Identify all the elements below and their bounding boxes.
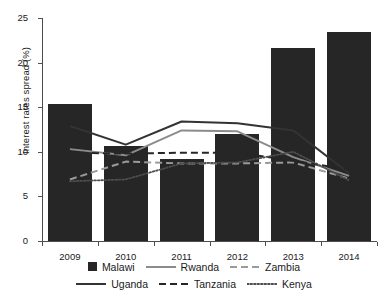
legend-label: Zambia — [265, 261, 300, 273]
legend-row-1: MalawiRwandaZambia — [0, 258, 388, 275]
line-zambia — [70, 162, 349, 180]
chart-legend: MalawiRwandaZambia UgandaTanzaniaKenya — [0, 258, 388, 292]
legend-label: Uganda — [111, 278, 148, 290]
legend-label: Rwanda — [181, 261, 220, 273]
legend-square-swatch-icon — [88, 262, 97, 271]
legend-dashed-gray-line-icon — [230, 263, 260, 271]
x-tick — [42, 242, 43, 246]
legend-label: Kenya — [282, 278, 312, 290]
legend-solid-gray-line-icon — [146, 263, 176, 271]
legend-dashed-black-line-icon — [159, 280, 189, 288]
x-tick — [265, 242, 266, 246]
line-rwanda — [70, 130, 349, 175]
legend-item-kenya[interactable]: Kenya — [247, 278, 312, 290]
legend-item-zambia[interactable]: Zambia — [230, 261, 300, 273]
legend-label: Malawi — [102, 261, 135, 273]
x-tick — [377, 242, 378, 246]
legend-row-2: UgandaTanzaniaKenya — [0, 275, 388, 292]
x-tick — [98, 242, 99, 246]
y-tick-label: 15 — [6, 102, 28, 112]
y-tick-label: 5 — [6, 191, 28, 201]
legend-item-uganda[interactable]: Uganda — [76, 278, 148, 290]
x-tick — [210, 242, 211, 246]
x-tick — [154, 242, 155, 246]
x-tick — [321, 242, 322, 246]
y-tick-label: 0 — [6, 236, 28, 246]
legend-item-tanzania[interactable]: Tanzania — [159, 278, 236, 290]
legend-item-rwanda[interactable]: Rwanda — [146, 261, 220, 273]
y-tick-label: 10 — [6, 147, 28, 157]
y-tick-label: 25 — [6, 13, 28, 23]
legend-label: Tanzania — [194, 278, 236, 290]
legend-solid-black-line-icon — [76, 280, 106, 288]
y-tick-label: 20 — [6, 58, 28, 68]
interest-rates-spread-chart: Interest rates spread (%) 0510152025 200… — [0, 0, 388, 297]
plot-area: 0510152025 200920102011201220132014 — [42, 14, 377, 242]
line-series-group — [42, 14, 377, 242]
legend-dotted-line-icon — [247, 280, 277, 288]
legend-item-malawi[interactable]: Malawi — [88, 261, 135, 273]
line-kenya — [70, 152, 349, 181]
